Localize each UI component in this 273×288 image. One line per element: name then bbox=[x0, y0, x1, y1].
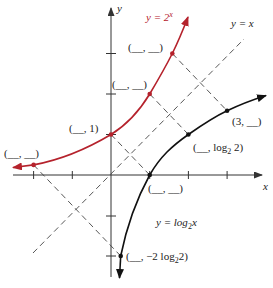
point-log-quarter bbox=[118, 254, 123, 259]
x-axis-label: x bbox=[262, 180, 268, 192]
identity-line-label: y = x bbox=[230, 17, 254, 29]
point-exp-neg2 bbox=[31, 163, 36, 168]
label-exp-1: (__, __) bbox=[112, 78, 147, 91]
exp-curve-label: y = 2x bbox=[145, 10, 173, 23]
log-curve-label: y = log2x bbox=[155, 216, 197, 231]
graph-canvas: y x y = 2x y = x y = log2x (__, __) (__,… bbox=[0, 0, 273, 288]
point-exp-log3 bbox=[170, 51, 175, 56]
y-axis-label: y bbox=[116, 2, 122, 14]
label-log-2: (__, log2 2) bbox=[193, 141, 243, 156]
point-exp-1 bbox=[147, 92, 152, 97]
label-log-quarter: (__, −2 log22) bbox=[126, 250, 188, 265]
label-exp-0: (__, 1) bbox=[69, 122, 99, 135]
label-exp-log3: (__, __) bbox=[128, 41, 163, 54]
point-log-3 bbox=[225, 109, 230, 114]
label-log-1: (__, __) bbox=[148, 182, 183, 195]
label-exp-neg2: (__, __) bbox=[4, 147, 39, 160]
point-exp-0 bbox=[109, 132, 114, 137]
point-log-2 bbox=[186, 132, 191, 137]
label-log-3: (3, __) bbox=[232, 115, 262, 128]
log-curve-bottom-tail bbox=[120, 256, 121, 278]
point-log-1 bbox=[147, 173, 152, 178]
exp-points bbox=[31, 51, 174, 167]
exp-curve-left-tail bbox=[13, 165, 34, 168]
